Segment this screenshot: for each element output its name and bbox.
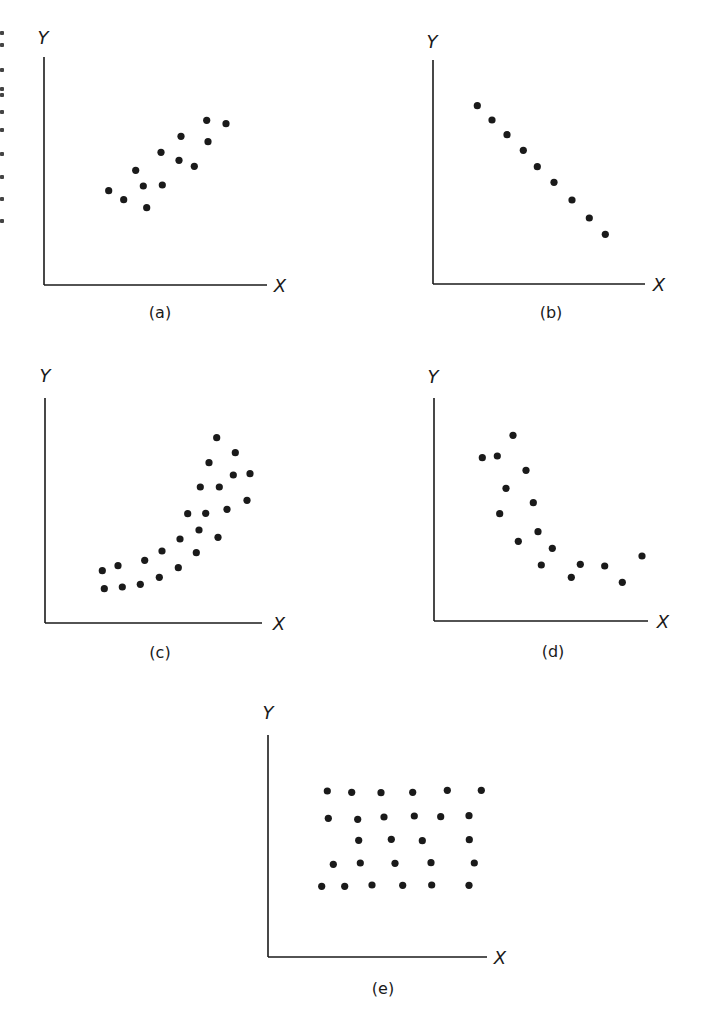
data-point bbox=[175, 564, 182, 571]
margin-fragment bbox=[0, 31, 4, 35]
x-axis-label: X bbox=[652, 274, 666, 295]
data-point bbox=[471, 859, 478, 866]
x-axis-label: X bbox=[272, 613, 286, 634]
data-point bbox=[419, 837, 426, 844]
data-point bbox=[534, 163, 541, 170]
margin-fragment bbox=[0, 152, 4, 156]
data-point bbox=[119, 583, 126, 590]
margin-fragment bbox=[0, 68, 4, 72]
data-point bbox=[202, 510, 209, 517]
data-point bbox=[568, 574, 575, 581]
data-point bbox=[586, 214, 593, 221]
data-point bbox=[577, 561, 584, 568]
data-point bbox=[175, 157, 182, 164]
data-point bbox=[530, 499, 537, 506]
data-point bbox=[213, 434, 220, 441]
data-point bbox=[193, 549, 200, 556]
data-point bbox=[205, 459, 212, 466]
data-point bbox=[325, 815, 332, 822]
data-point bbox=[157, 149, 164, 156]
data-point bbox=[409, 789, 416, 796]
margin-fragment bbox=[0, 110, 4, 114]
data-point bbox=[120, 196, 127, 203]
data-point bbox=[243, 497, 250, 504]
data-point bbox=[478, 787, 485, 794]
data-point bbox=[549, 545, 556, 552]
data-point bbox=[355, 837, 362, 844]
y-axis-label: Y bbox=[40, 365, 53, 386]
panel-caption: (e) bbox=[372, 979, 394, 998]
data-point bbox=[223, 506, 230, 513]
data-point bbox=[465, 812, 472, 819]
data-point bbox=[619, 579, 626, 586]
data-point bbox=[602, 231, 609, 238]
data-point bbox=[184, 510, 191, 517]
scatter-panel-c: YX(c) bbox=[40, 365, 286, 662]
data-point bbox=[132, 167, 139, 174]
data-point bbox=[638, 552, 645, 559]
data-point bbox=[177, 133, 184, 140]
data-point bbox=[143, 204, 150, 211]
data-point bbox=[137, 581, 144, 588]
y-axis-label: Y bbox=[263, 702, 276, 723]
data-point bbox=[318, 883, 325, 890]
data-point bbox=[427, 859, 434, 866]
data-point bbox=[222, 120, 229, 127]
data-point bbox=[368, 881, 375, 888]
data-point bbox=[474, 102, 481, 109]
data-point bbox=[195, 526, 202, 533]
margin-fragment bbox=[0, 93, 4, 97]
data-point bbox=[494, 452, 501, 459]
data-point bbox=[391, 860, 398, 867]
x-axis-label: X bbox=[656, 611, 670, 632]
scatter-plots-canvas: YX(a)YX(b)YX(c)YX(d)YX(e) bbox=[0, 0, 710, 1028]
data-point bbox=[503, 131, 510, 138]
data-point bbox=[357, 859, 364, 866]
data-point bbox=[341, 883, 348, 890]
data-point bbox=[197, 483, 204, 490]
data-point bbox=[496, 510, 503, 517]
data-point bbox=[515, 538, 522, 545]
data-point bbox=[534, 528, 541, 535]
data-point bbox=[538, 561, 545, 568]
data-point bbox=[141, 557, 148, 564]
data-point bbox=[509, 432, 516, 439]
y-axis-label: Y bbox=[427, 31, 440, 52]
data-point bbox=[466, 836, 473, 843]
data-point bbox=[377, 789, 384, 796]
data-point bbox=[522, 467, 529, 474]
data-point bbox=[246, 470, 253, 477]
data-point bbox=[568, 196, 575, 203]
data-point bbox=[232, 449, 239, 456]
data-point bbox=[428, 881, 435, 888]
data-point bbox=[216, 483, 223, 490]
scatter-panel-b: YX(b) bbox=[427, 31, 666, 322]
data-point bbox=[176, 535, 183, 542]
data-point bbox=[380, 813, 387, 820]
data-point bbox=[388, 836, 395, 843]
y-axis-label: Y bbox=[38, 27, 51, 48]
data-point bbox=[191, 163, 198, 170]
data-point bbox=[465, 882, 472, 889]
data-point bbox=[159, 181, 166, 188]
data-point bbox=[114, 562, 121, 569]
data-point bbox=[101, 585, 108, 592]
data-point bbox=[156, 574, 163, 581]
margin-fragment bbox=[0, 87, 4, 91]
x-axis-label: X bbox=[493, 947, 507, 968]
panel-caption: (b) bbox=[540, 303, 563, 322]
panel-caption: (a) bbox=[149, 303, 171, 322]
panel-caption: (d) bbox=[542, 642, 565, 661]
panel-caption: (c) bbox=[149, 643, 170, 662]
x-axis-label: X bbox=[273, 275, 287, 296]
scatter-panel-d: YX(d) bbox=[428, 366, 670, 661]
data-point bbox=[488, 116, 495, 123]
margin-fragment bbox=[0, 128, 4, 132]
scatter-figure: YX(a)YX(b)YX(c)YX(d)YX(e) bbox=[0, 0, 710, 1028]
margin-fragment bbox=[0, 219, 4, 223]
data-point bbox=[324, 787, 331, 794]
data-point bbox=[444, 787, 451, 794]
margin-fragment bbox=[0, 43, 4, 47]
margin-fragment bbox=[0, 197, 4, 201]
data-point bbox=[502, 485, 509, 492]
